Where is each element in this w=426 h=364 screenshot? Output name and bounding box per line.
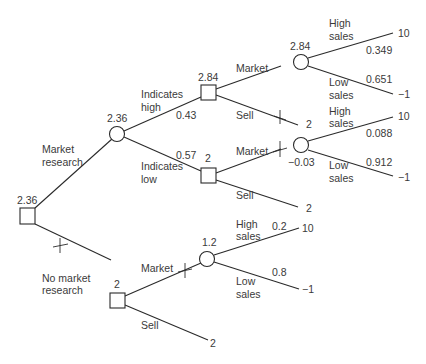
low-market-high-sales-label: High	[329, 105, 351, 117]
nomr-market-chance-value: 1.2	[202, 236, 217, 248]
nomr-market-label: Market	[141, 262, 173, 274]
high-market-high-sales-label: High	[329, 17, 351, 29]
nomr-market-high-sales-payoff: 10	[302, 222, 314, 234]
high-sell-label: Sell	[236, 109, 254, 121]
indicates-high-label: Indicates	[141, 88, 183, 100]
market-research-chance-value: 2.36	[107, 112, 128, 124]
prune-mark-no-market-research-b	[53, 244, 68, 247]
low-market-label: Market	[236, 145, 268, 157]
nomr-market-high-sales-label: High	[236, 218, 258, 230]
high-market-low-sales-probability: 0.651	[366, 73, 392, 85]
indicates-high-probability: 0.43	[176, 109, 197, 121]
high-market-low-sales-label: Low	[329, 76, 349, 88]
low-market-high-sales-probability: 0.088	[366, 127, 392, 139]
indicates-low-label: Indicates	[141, 160, 183, 172]
nomr-sell-label: Sell	[141, 319, 159, 331]
edge-nomr-sell	[125, 305, 208, 340]
no-market-research-decision-value: 2	[114, 278, 120, 290]
nomr-market-low-sales-label: Low	[236, 275, 256, 287]
low-market-chance-node	[294, 138, 309, 153]
high-market-low-sales-label-2: sales	[329, 89, 354, 101]
high-market-chance-node	[294, 55, 309, 70]
high-market-chance-value: 2.84	[290, 40, 311, 52]
low-market-high-sales-label-2: sales	[329, 117, 354, 129]
high-market-high-sales-label-2: sales	[329, 30, 354, 42]
low-market-low-sales-label-2: sales	[329, 172, 354, 184]
low-market-low-sales-label: Low	[329, 159, 349, 171]
nomr-market-high-sales-probability: 0.2	[272, 220, 287, 232]
indicates-high-decision-node	[201, 85, 216, 100]
high-market-high-sales-probability: 0.349	[366, 44, 392, 56]
indicates-high-label-2: high	[141, 101, 161, 113]
nomr-market-high-sales-label-2: sales	[236, 230, 261, 242]
no-market-research-label-2: research	[42, 284, 83, 296]
indicates-low-decision-node	[201, 168, 216, 183]
indicates-low-label-2: low	[141, 173, 157, 185]
indicates-high-decision-value: 2.84	[198, 71, 219, 83]
nomr-market-chance-node	[200, 252, 215, 267]
low-sell-payoff: 2	[306, 202, 312, 214]
no-market-research-decision-node	[110, 293, 125, 308]
no-market-research-label: No market	[42, 272, 91, 284]
nomr-market-low-sales-label-2: sales	[236, 288, 261, 300]
low-sell-label: Sell	[236, 189, 254, 201]
nomr-market-low-sales-payoff: −1	[302, 283, 314, 295]
market-research-chance-node	[110, 127, 125, 142]
low-market-low-sales-payoff: −1	[398, 171, 410, 183]
nomr-market-low-sales-probability: 0.8	[272, 266, 287, 278]
indicates-low-decision-value: 2	[205, 152, 211, 164]
root-value: 2.36	[17, 194, 38, 206]
low-market-chance-value: −0.03	[288, 156, 315, 168]
high-market-high-sales-payoff: 10	[398, 27, 410, 39]
high-sell-payoff: 2	[306, 118, 312, 130]
market-research-label: Market	[42, 143, 74, 155]
high-market-label: Market	[236, 62, 268, 74]
high-market-low-sales-payoff: −1	[398, 88, 410, 100]
low-market-low-sales-probability: 0.912	[366, 156, 392, 168]
decision-tree-diagram: 2.36 Market research 2.36 Indicates high…	[0, 0, 426, 364]
nomr-sell-payoff: 2	[210, 337, 216, 349]
low-market-high-sales-payoff: 10	[398, 110, 410, 122]
root-decision-node	[20, 208, 35, 224]
edge-no-market-research	[35, 224, 111, 260]
market-research-label-2: research	[42, 156, 83, 168]
edge-low-sell	[216, 180, 298, 207]
edge-high-sell	[216, 95, 298, 125]
